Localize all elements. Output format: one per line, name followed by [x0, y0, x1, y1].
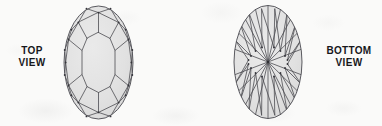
- top-view-label: TOP VIEW: [6, 45, 58, 69]
- gemstone-figure: TOP VIEW BOTTOM VIEW: [0, 0, 382, 126]
- top-view-label-line1: TOP: [6, 45, 58, 57]
- bottom-view-label-line2: VIEW: [318, 57, 380, 69]
- bottom-view-culet-point: [267, 61, 269, 63]
- bottom-view-label-line1: BOTTOM: [318, 45, 380, 57]
- top-view-label-line2: VIEW: [6, 57, 58, 69]
- top-view-stone: [64, 6, 134, 119]
- bottom-view-label: BOTTOM VIEW: [318, 45, 380, 69]
- bottom-view-stone: [234, 6, 302, 119]
